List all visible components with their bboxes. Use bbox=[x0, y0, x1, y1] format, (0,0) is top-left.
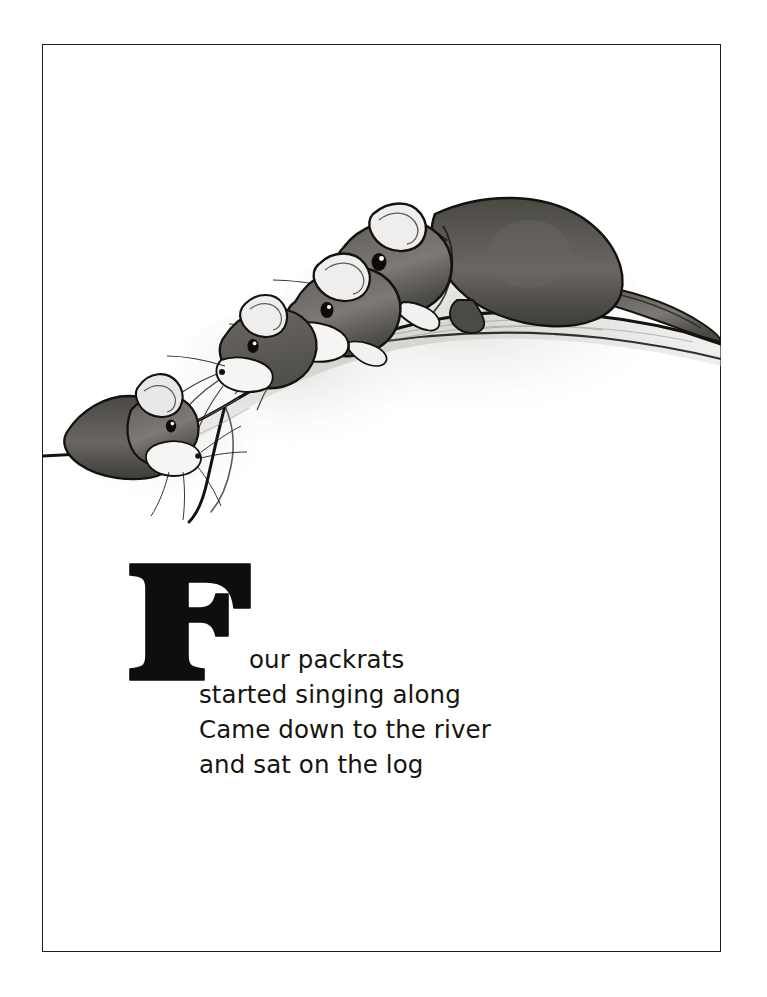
verse-line-2: started singing along bbox=[199, 677, 639, 712]
packrat-smallest-muzzle bbox=[146, 441, 201, 476]
packrats-illustration bbox=[43, 170, 721, 540]
packrat-smallest-eye bbox=[166, 420, 176, 433]
packrat-small-ear bbox=[240, 295, 287, 337]
packrat-smallest-ear bbox=[136, 374, 183, 417]
packrat-small-eye bbox=[247, 339, 258, 353]
verse-lines: our packrats started singing along Came … bbox=[199, 642, 639, 782]
book-page: our packrats started singing along Came … bbox=[0, 0, 767, 997]
packrats-illustration-svg bbox=[43, 170, 721, 540]
verse-line-1: our packrats bbox=[199, 642, 639, 677]
packrat-small-nose bbox=[219, 369, 225, 375]
packrat-smallest-nose bbox=[195, 453, 201, 459]
verse-line-3: Came down to the river bbox=[199, 712, 639, 747]
packrat-medium-eye bbox=[321, 302, 334, 318]
packrat-largest-eye bbox=[372, 253, 387, 271]
verse-line-4: and sat on the log bbox=[199, 747, 639, 782]
